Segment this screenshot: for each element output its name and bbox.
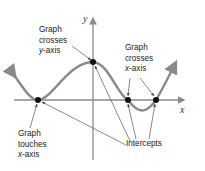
label-intercepts: Intercepts (126, 138, 162, 149)
leader-intercept-4 (149, 104, 155, 139)
leader-crosses-y (72, 46, 91, 60)
leader-intercept-2 (95, 66, 130, 141)
label-crosses-y-axis: Graph crosses y-axis (39, 24, 67, 56)
leader-crosses-x-2 (140, 78, 154, 96)
x-axis-label: x (180, 104, 184, 115)
leader-touches-x (30, 104, 37, 128)
label-crosses-x-axis: Graph crosses x-axis (125, 42, 153, 74)
label-touches-x-axis: Graph touches x-axis (18, 128, 47, 160)
y-axis-label: y (83, 13, 87, 24)
leader-intercept-3 (128, 104, 136, 139)
leader-intercept-1 (42, 102, 126, 145)
point-touch-x (35, 97, 41, 103)
point-x-intercept-2 (153, 97, 159, 103)
point-y-intercept (90, 59, 96, 65)
point-x-intercept-1 (125, 97, 131, 103)
leader-crosses-x-1 (128, 78, 130, 96)
